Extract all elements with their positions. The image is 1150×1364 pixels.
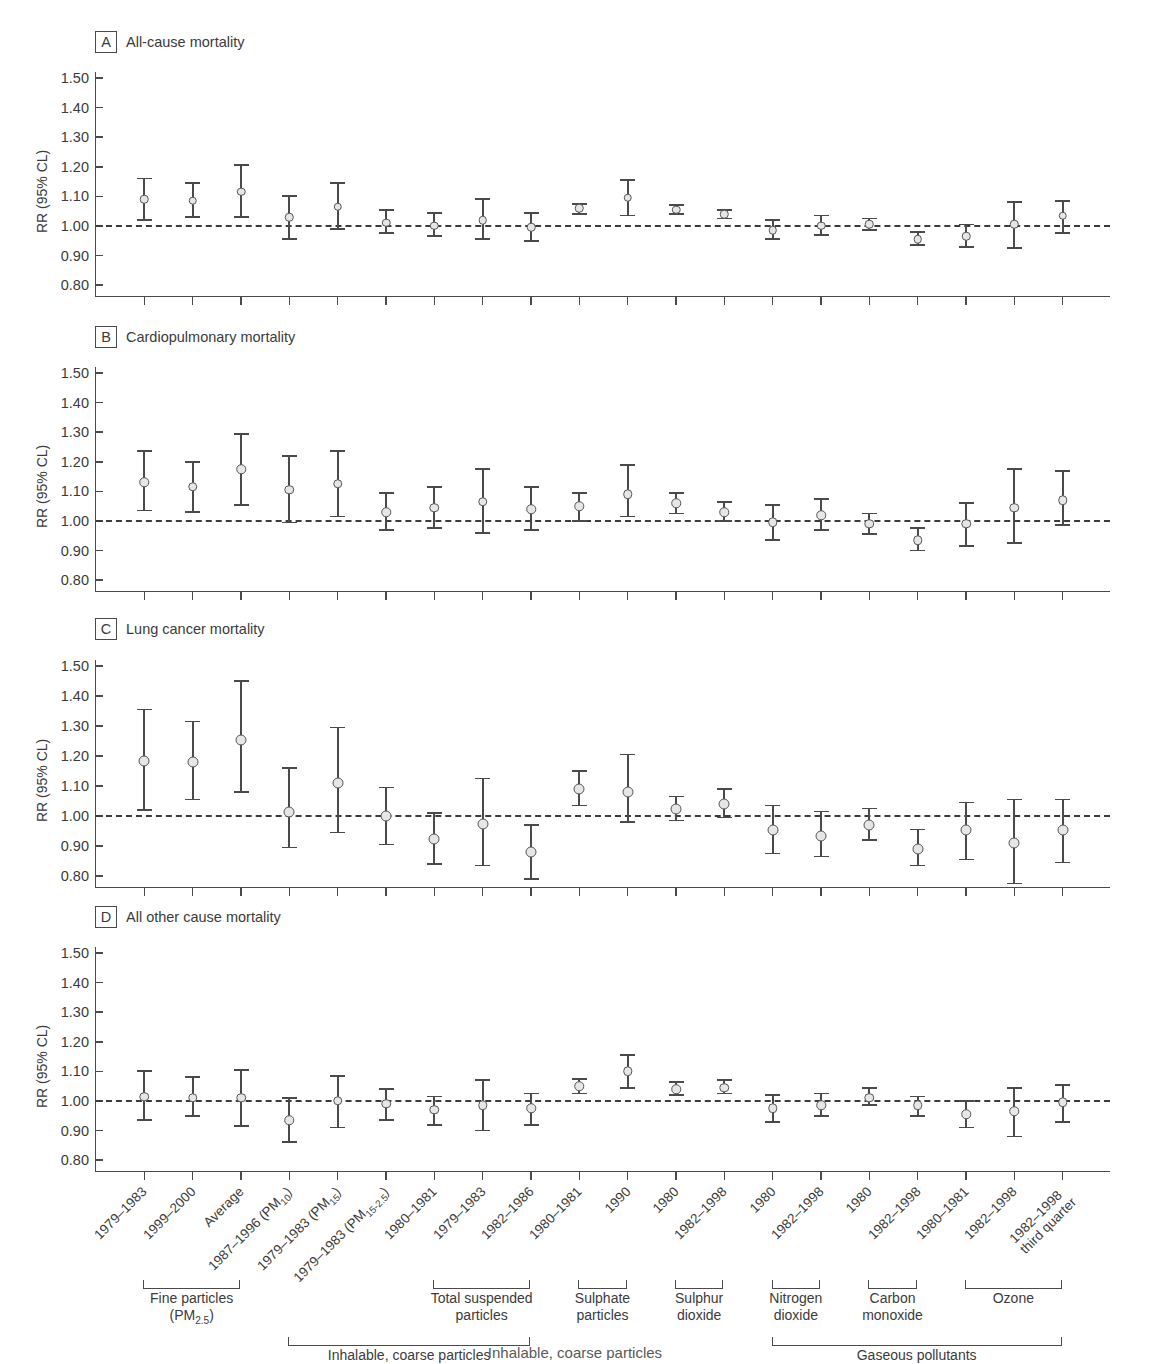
panel-title: All-cause mortality (126, 34, 244, 50)
x-tick-mark (144, 1172, 146, 1180)
error-bar-cap-upper (910, 829, 925, 831)
error-bar-cap-upper (1055, 200, 1070, 202)
rr-marker (284, 806, 295, 817)
error-bar-cap-upper (282, 1097, 297, 1099)
error-bar-cap-lower (137, 219, 152, 221)
error-bar-cap-upper (185, 1076, 200, 1078)
y-tick-label: 1.10 (61, 483, 96, 499)
error-bar-cap-lower (620, 821, 635, 823)
error-bar-cap-upper (234, 1069, 249, 1071)
y-tick-mark (96, 875, 103, 877)
error-bar-cap-upper (959, 802, 974, 804)
rr-marker (768, 518, 778, 528)
rr-marker (720, 210, 729, 219)
figure-caption: Inhalable, coarse particles (0, 1344, 1150, 1360)
error-bar-cap-upper (814, 811, 829, 813)
y-tick-mark (96, 725, 103, 727)
error-bar-cap-lower (234, 216, 249, 218)
rr-marker (623, 194, 632, 203)
rr-marker (961, 1110, 971, 1120)
error-bar-cap-upper (669, 1081, 684, 1083)
y-tick-mark (96, 431, 103, 433)
error-bar-cap-lower (1007, 542, 1022, 544)
reference-line (96, 520, 1110, 522)
error-bar-cap-lower (427, 527, 442, 529)
error-bar-cap-upper (1007, 1087, 1022, 1089)
rr-marker (477, 818, 488, 829)
x-tick-mark (1062, 1172, 1064, 1180)
error-bar-cap-upper (330, 182, 345, 184)
group-3-bracket (675, 1280, 723, 1289)
group-0-label: Fine particles(PM2.5) (73, 1290, 310, 1327)
x-tick-mark (530, 592, 532, 600)
x-tick-mark (579, 297, 581, 305)
y-tick-mark (96, 1159, 103, 1161)
x-tick-mark (530, 297, 532, 305)
error-bar-cap-upper (475, 1079, 490, 1081)
error-bar-cap-lower (282, 238, 297, 240)
error-bar-cap-upper (1055, 1084, 1070, 1086)
x-tick-mark (192, 1172, 194, 1180)
error-bar-cap-lower (572, 805, 587, 807)
y-tick-label: 1.30 (61, 424, 96, 440)
x-tick-mark (820, 592, 822, 600)
error-bar-cap-lower (572, 520, 587, 522)
rr-marker (1009, 838, 1020, 849)
x-tick-mark (772, 1172, 774, 1180)
rr-marker (671, 498, 681, 508)
x-tick-mark (240, 1172, 242, 1180)
y-tick-label: 1.20 (61, 748, 96, 764)
y-tick-label: 1.10 (61, 188, 96, 204)
x-tick-mark (337, 297, 339, 305)
panel-letter-badge: A (95, 31, 117, 53)
error-bar-cap-lower (717, 520, 732, 522)
error-bar-cap-lower (910, 865, 925, 867)
error-bar-cap-lower (862, 229, 877, 231)
x-tick-mark (1014, 592, 1016, 600)
x-tick-mark (724, 297, 726, 305)
y-tick-mark (96, 372, 103, 374)
error-bar-cap-lower (524, 1124, 539, 1126)
x-tick-mark (289, 297, 291, 305)
x-tick-mark (1014, 1172, 1016, 1180)
error-bar-cap-lower (1055, 524, 1070, 526)
error-bar-cap-lower (862, 1104, 877, 1106)
x-tick-mark (965, 1172, 967, 1180)
y-tick-label: 1.00 (61, 513, 96, 529)
error-bar-cap-lower (814, 529, 829, 531)
rr-marker (1058, 1098, 1068, 1108)
error-bar-cap-upper (137, 178, 152, 180)
error-bar-cap-upper (717, 788, 732, 790)
error-bar-cap-lower (330, 516, 345, 518)
x-tick-mark (869, 1172, 871, 1180)
y-tick-mark (96, 579, 103, 581)
y-tick-label: 1.20 (61, 1034, 96, 1050)
error-bar-cap-upper (862, 218, 877, 220)
rr-marker (719, 799, 730, 810)
error-bar-cap-upper (620, 1054, 635, 1056)
y-tick-mark (96, 107, 103, 109)
rr-marker (187, 757, 198, 768)
error-bar-cap-lower (524, 878, 539, 880)
x-tick-mark (772, 297, 774, 305)
error-bar-cap-lower (330, 832, 345, 834)
error-bar-cap-upper (765, 504, 780, 506)
x-tick-mark (772, 592, 774, 600)
x-tick-mark (917, 297, 919, 305)
panel-header-d: DAll other cause mortality (95, 905, 281, 929)
y-tick-label: 1.50 (61, 945, 96, 961)
x-tick-label: 1980 (746, 1184, 778, 1216)
panel-title: Cardiopulmonary mortality (126, 329, 295, 345)
rr-marker (526, 847, 537, 858)
rr-marker (816, 510, 826, 520)
rr-marker (430, 222, 439, 231)
x-tick-mark (1062, 888, 1064, 896)
x-tick-mark (337, 1172, 339, 1180)
panel-header-c: CLung cancer mortality (95, 617, 265, 641)
y-tick-mark (96, 1011, 103, 1013)
y-tick-label: 0.80 (61, 277, 96, 293)
x-tick-mark (627, 592, 629, 600)
x-tick-mark (820, 297, 822, 305)
panel-letter-badge: D (95, 906, 117, 928)
error-bar-cap-lower (234, 791, 249, 793)
